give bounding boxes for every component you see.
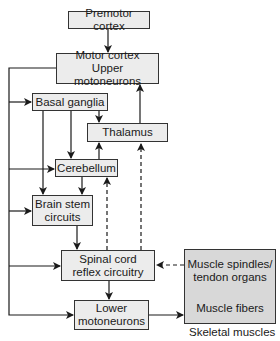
cerebellum-node: Cerebellum [55,159,118,177]
motoneurons-label: motoneurons [78,315,145,328]
lower-label: Lower [96,302,127,315]
spinal-cord-node: Spinal cord reflex circuitry [61,250,155,281]
spinal-cord-label: Spinal cord [79,253,137,266]
premotor-cortex-label: Premotor cortex [69,7,149,33]
basal-ganglia-label: Basal ganglia [35,96,104,109]
cerebellum-label: Cerebellum [57,162,116,175]
upper-motoneurons-label: Upper motoneurons [57,62,158,88]
muscle-spindles-label: Muscle spindles/ [187,258,272,271]
tendon-organs-label: tendon organs [187,271,272,284]
motor-control-diagram: Premotor cortex Motor cortex Upper moton… [0,0,280,341]
lower-motoneurons-node: Lower motoneurons [74,300,149,330]
reflex-circuitry-label: reflex circuitry [73,266,144,279]
thalamus-label: Thalamus [102,126,153,139]
skeletal-muscles-caption: Skeletal muscles [189,326,275,338]
motor-cortex-label: Motor cortex [76,49,140,62]
thalamus-node: Thalamus [87,123,168,142]
premotor-cortex-node: Premotor cortex [68,11,150,29]
brain-stem-circuits-node: Brain stem circuits [32,195,93,226]
motor-cortex-node: Motor cortex Upper motoneurons [56,53,159,84]
muscle-spindles-group: Muscle spindles/ tendon organs [187,258,272,284]
brain-stem-label: Brain stem [35,198,90,211]
basal-ganglia-node: Basal ganglia [32,93,108,111]
circuits-label: circuits [45,211,81,224]
skeletal-muscles-node: Muscle spindles/ tendon organs Muscle fi… [184,249,276,324]
muscle-fibers-label: Muscle fibers [196,302,264,315]
